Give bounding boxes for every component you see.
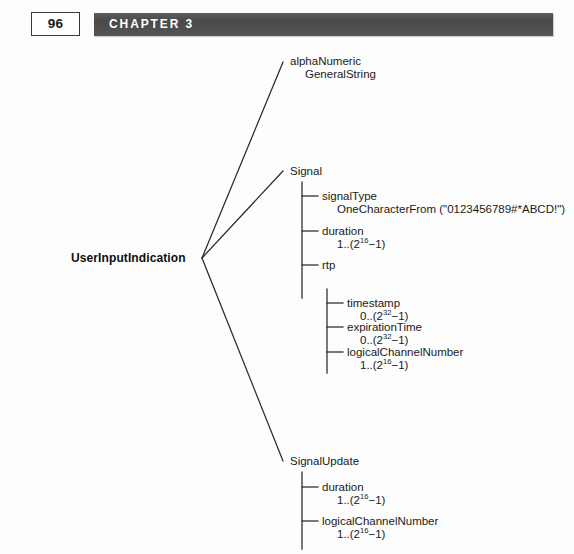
node-rtp-logicalchannelnumber-label: logicalChannelNumber xyxy=(347,346,463,359)
node-signalupdate: SignalUpdate xyxy=(290,455,359,468)
node-signalupdate-duration-label: duration xyxy=(322,481,385,494)
node-signal-signaltype-label: signalType xyxy=(322,190,565,203)
node-alphanumeric: alphaNumeric GeneralString xyxy=(290,55,376,81)
node-signalupdate-logicalchannelnumber-value: 1..(216−1) xyxy=(322,528,438,541)
tree-diagram: UserInputIndication alphaNumeric General… xyxy=(0,0,574,554)
node-signal-rtp: rtp xyxy=(322,259,335,272)
node-signalupdate-logicalchannelnumber: logicalChannelNumber 1..(216−1) xyxy=(322,515,438,541)
node-rtp-timestamp-label: timestamp xyxy=(347,297,408,310)
page-canvas: 96 CHAPTER 3 xyxy=(0,0,574,554)
node-rtp-timestamp: timestamp 0..(232−1) xyxy=(347,297,408,323)
edge-root-to-signal xyxy=(202,171,283,258)
node-signal-duration-value: 1..(216−1) xyxy=(322,238,385,251)
edge-root-to-signalupdate xyxy=(202,258,283,461)
node-alphanumeric-value: GeneralString xyxy=(290,68,376,81)
node-signal: Signal xyxy=(290,165,322,178)
edge-root-to-alphanumeric xyxy=(202,62,283,258)
node-signalupdate-logicalchannelnumber-label: logicalChannelNumber xyxy=(322,515,438,528)
node-signal-duration-label: duration xyxy=(322,225,385,238)
node-alphanumeric-label: alphaNumeric xyxy=(290,55,376,68)
node-userinputindication: UserInputIndication xyxy=(71,252,186,265)
node-rtp-logicalchannelnumber-value: 1..(216−1) xyxy=(347,359,463,372)
node-rtp-logicalchannelnumber: logicalChannelNumber 1..(216−1) xyxy=(347,346,463,372)
node-signal-signaltype: signalType OneCharacterFrom ("0123456789… xyxy=(322,190,565,216)
node-signalupdate-duration-value: 1..(216−1) xyxy=(322,494,385,507)
node-signal-duration: duration 1..(216−1) xyxy=(322,225,385,251)
node-signal-signaltype-value: OneCharacterFrom ("0123456789#*ABCD!") xyxy=(322,203,565,216)
node-signalupdate-duration: duration 1..(216−1) xyxy=(322,481,385,507)
node-rtp-expirationtime: expirationTime 0..(232−1) xyxy=(347,321,422,347)
tree-connector-lines xyxy=(0,0,574,554)
